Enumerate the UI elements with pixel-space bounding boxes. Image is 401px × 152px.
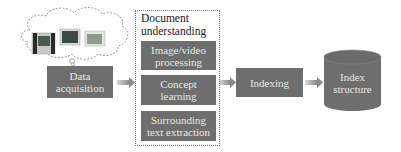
node-label: text extraction [147, 126, 210, 138]
arrow-icon [117, 77, 135, 88]
node-label: Data [56, 70, 104, 82]
node-label: Surrounding [147, 114, 210, 126]
group-title-line: understanding [141, 25, 206, 38]
node-label: Indexing [250, 77, 289, 89]
node-label: acquisition [56, 82, 104, 94]
concept-learning-node: Conceptlearning [141, 75, 216, 105]
index-structure-node: Indexstructure [324, 68, 381, 98]
surrounding-text-extraction-node: Surroundingtext extraction [141, 111, 216, 141]
group-title: Document understanding [141, 12, 206, 38]
node-label: Concept [160, 78, 197, 90]
image-video-processing-node: Image/videoprocessing [141, 41, 216, 70]
node-label: structure [333, 83, 371, 95]
data-acquisition-node: Dataacquisition [47, 66, 113, 98]
arrow-icon [305, 77, 323, 88]
indexing-node: Indexing [236, 68, 303, 97]
node-label: Index [333, 71, 371, 83]
group-title-line: Document [141, 12, 206, 25]
node-label: processing [151, 56, 206, 68]
node-label: learning [160, 90, 197, 102]
node-label: Image/video [151, 44, 206, 56]
arrow-icon [219, 77, 236, 88]
